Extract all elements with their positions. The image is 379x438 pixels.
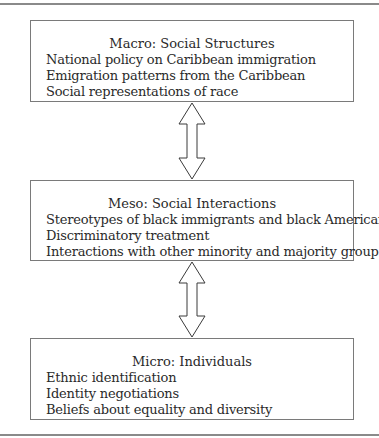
micro-item: Beliefs about equality and diversity	[46, 402, 353, 418]
micro-item: Ethnic identification	[46, 370, 353, 386]
meso-item: Interactions with other minority and maj…	[46, 244, 353, 260]
macro-item: Social representations of race	[46, 84, 353, 100]
macro-title: Macro: Social Structures	[46, 36, 338, 52]
macro-item: Emigration patterns from the Caribbean	[46, 68, 353, 84]
meso-item: Stereotypes of black immigrants and blac…	[46, 212, 353, 228]
double-arrow-icon	[177, 261, 207, 338]
micro-item: Identity negotiations	[46, 386, 353, 402]
top-rule	[0, 3, 379, 5]
micro-box: Micro: Individuals Ethnic identification…	[30, 338, 354, 420]
macro-item: National policy on Caribbean immigration	[46, 52, 353, 68]
double-arrow-icon	[177, 102, 207, 180]
meso-item: Discriminatory treatment	[46, 228, 353, 244]
micro-title: Micro: Individuals	[46, 354, 338, 370]
meso-title: Meso: Social Interactions	[46, 196, 338, 212]
meso-box: Meso: Social Interactions Stereotypes of…	[30, 180, 354, 261]
bottom-rule	[0, 434, 379, 436]
macro-box: Macro: Social Structures National policy…	[30, 20, 354, 102]
